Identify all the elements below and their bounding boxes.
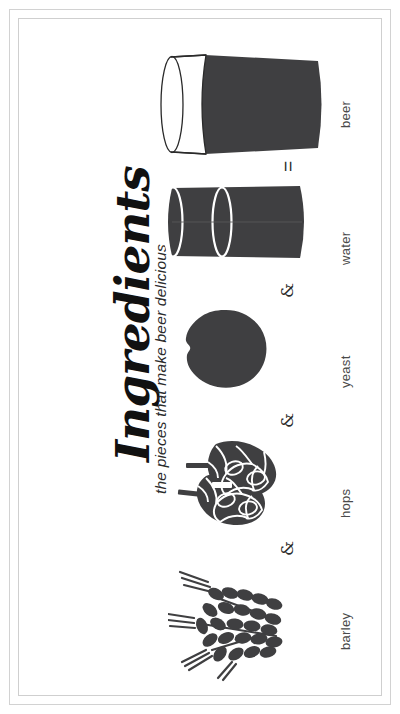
hops-art bbox=[172, 438, 282, 530]
poster-stage: Ingredients the pieces that make beer de… bbox=[0, 0, 400, 714]
beer-glass-icon bbox=[150, 47, 325, 162]
ingredient-label-yeast: yeast bbox=[338, 355, 353, 388]
ingredient-label-barley: barley bbox=[338, 613, 353, 650]
barley-icon bbox=[168, 566, 288, 682]
ingredient-label-hops: hops bbox=[338, 489, 353, 518]
ampersand-hops-yeast: & bbox=[277, 413, 297, 428]
equals-water-beer: = bbox=[277, 161, 299, 172]
water-glass-icon bbox=[150, 183, 310, 261]
ingredient-label-water: water bbox=[338, 232, 353, 265]
yeast-icon bbox=[180, 308, 270, 390]
ingredients-poster: Ingredients the pieces that make beer de… bbox=[0, 0, 400, 714]
barley-art bbox=[168, 566, 288, 682]
beer-glass-art bbox=[150, 47, 325, 162]
ampersand-barley-hops: & bbox=[277, 541, 297, 556]
ampersand-yeast-water: & bbox=[277, 283, 297, 298]
yeast-art bbox=[180, 308, 270, 390]
ingredient-label-beer: beer bbox=[338, 101, 353, 128]
water-glass-art bbox=[150, 183, 310, 261]
hops-icon bbox=[172, 438, 282, 530]
page-subtitle: the pieces that make beer delicious bbox=[152, 244, 170, 494]
